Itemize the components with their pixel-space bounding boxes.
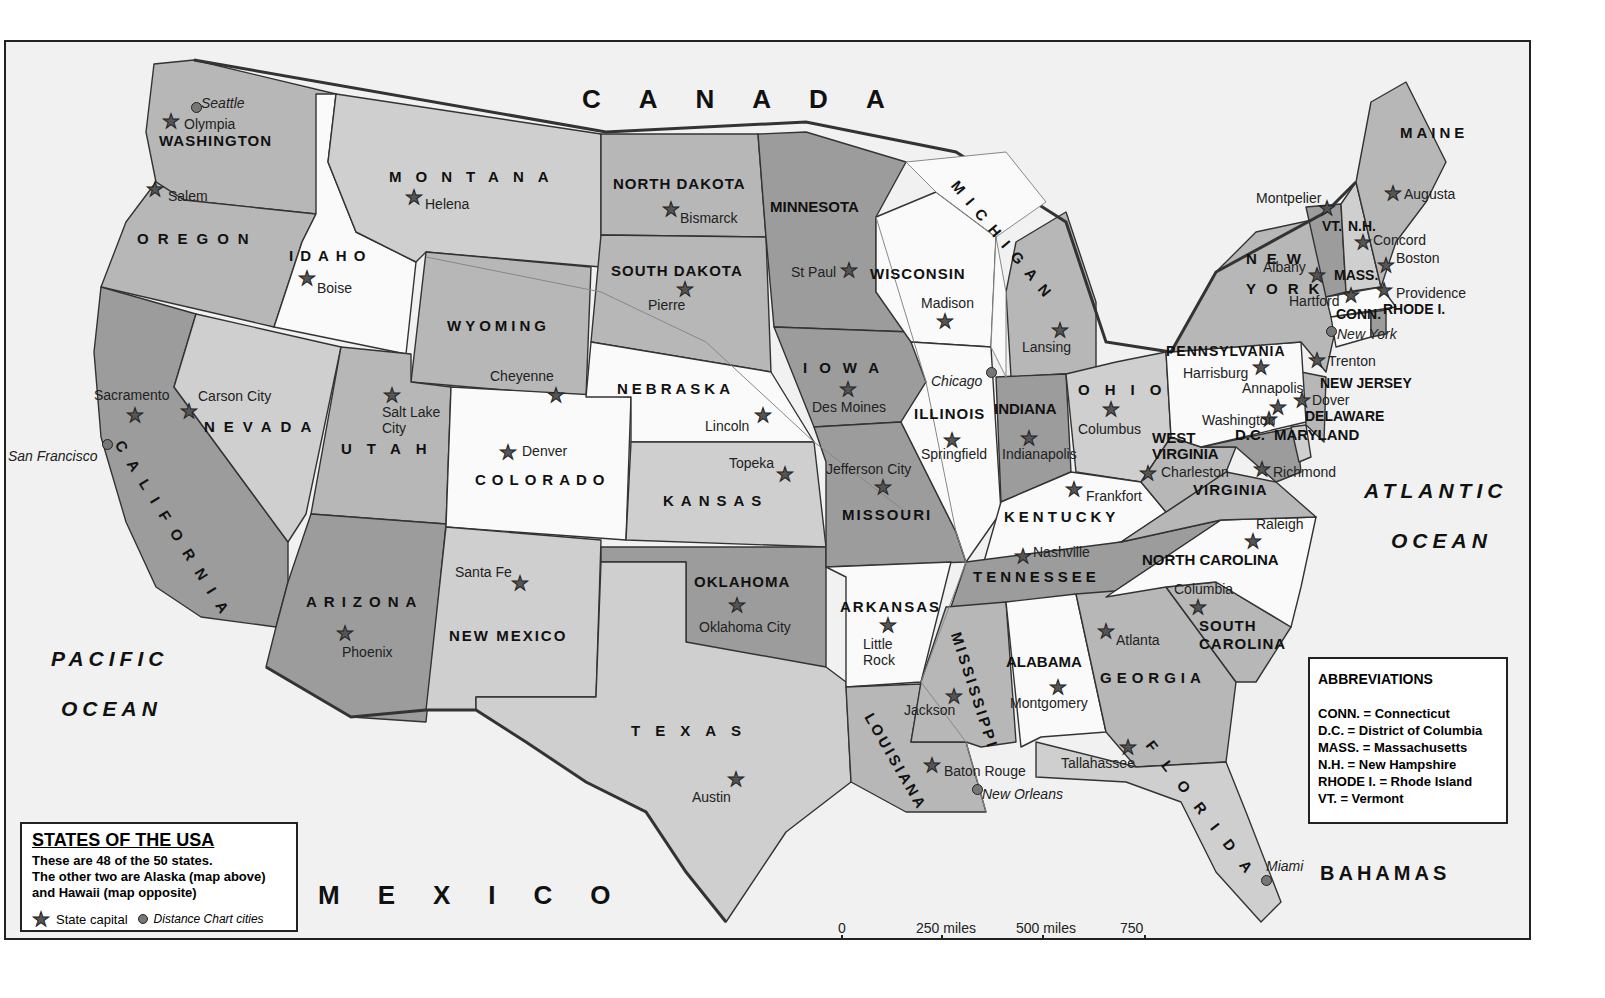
scale-label-500: 500 miles bbox=[1016, 920, 1076, 936]
label-arizona: ARIZONA bbox=[306, 593, 423, 610]
capital-pierre: Pierre bbox=[648, 297, 685, 313]
scale-bar: 0 250 miles 500 miles 750 miles bbox=[838, 920, 1148, 940]
capital-star-icon: ★ bbox=[405, 188, 423, 206]
scale-label-250: 250 miles bbox=[916, 920, 976, 936]
capital-montpelier: Montpelier bbox=[1256, 190, 1321, 206]
city-chicago: Chicago bbox=[931, 373, 982, 389]
label-new-mexico: NEW MEXICO bbox=[449, 627, 567, 644]
capital-star-icon: ★ bbox=[547, 386, 565, 404]
capital-star-icon: ★ bbox=[162, 112, 180, 130]
capital-denver: Denver bbox=[522, 443, 567, 459]
scale-label-750: 750 miles bbox=[1120, 920, 1153, 940]
capital-star-icon: ★ bbox=[662, 200, 680, 218]
legend-description-2: The other two are Alaska (map above) bbox=[32, 869, 286, 885]
capital-lincoln: Lincoln bbox=[705, 418, 749, 434]
label-maryland: MARYLAND bbox=[1274, 426, 1359, 443]
map-legend: STATES OF THE USA These are 48 of the 50… bbox=[20, 822, 298, 932]
capital-columbia: Columbia bbox=[1174, 581, 1233, 597]
capital-star-icon: ★ bbox=[1252, 358, 1270, 376]
label-nebraska: NEBRASKA bbox=[617, 380, 734, 397]
capital-olympia: Olympia bbox=[184, 116, 235, 132]
capital-austin: Austin bbox=[692, 789, 731, 805]
capital-star-icon: ★ bbox=[1308, 266, 1326, 284]
label-vermont: VT. bbox=[1322, 218, 1342, 234]
label-massachusetts: MASS. bbox=[1334, 267, 1378, 283]
capital-st-paul: St Paul bbox=[791, 264, 836, 280]
capital-star-icon: ★ bbox=[1244, 532, 1262, 550]
capital-star-icon: ★ bbox=[1051, 321, 1069, 339]
label-north-carolina: NORTH CAROLINA bbox=[1142, 551, 1279, 568]
capital-star-icon: ★ bbox=[727, 770, 745, 788]
capital-star-icon: ★ bbox=[180, 402, 198, 420]
label-west-virginia: WEST VIRGINIA bbox=[1152, 430, 1222, 462]
capital-star-icon: ★ bbox=[1342, 286, 1360, 304]
capital-star-icon: ★ bbox=[499, 443, 517, 461]
capital-star-icon: ★ bbox=[126, 406, 144, 424]
capital-star-icon: ★ bbox=[383, 386, 401, 404]
capital-phoenix: Phoenix bbox=[342, 644, 393, 660]
label-idaho: IDAHO bbox=[289, 247, 372, 264]
capital-jefferson-city: Jefferson City bbox=[826, 461, 911, 477]
state-colorado bbox=[446, 387, 631, 540]
label-virginia: VIRGINIA bbox=[1193, 481, 1268, 498]
city-seattle: Seattle bbox=[201, 95, 245, 111]
label-missouri: MISSOURI bbox=[842, 506, 932, 523]
label-north-dakota: NORTH DAKOTA bbox=[613, 175, 746, 192]
label-alabama: ALABAMA bbox=[1006, 653, 1082, 670]
capital-star-icon: ★ bbox=[336, 624, 354, 642]
city-san-francisco: San Francisco bbox=[8, 448, 97, 464]
capital-boise: Boise bbox=[317, 280, 352, 296]
abbreviation-item: RHODE I. = Rhode Island bbox=[1318, 773, 1498, 790]
abbreviation-item: CONN. = Connecticut bbox=[1318, 705, 1498, 722]
capital-santa-fe: Santa Fe bbox=[455, 564, 512, 580]
capital-charleston: Charleston bbox=[1161, 464, 1229, 480]
capital-des-moines: Des Moines bbox=[812, 399, 886, 415]
label-illinois: ILLINOIS bbox=[914, 405, 985, 422]
state-new-mexico bbox=[426, 527, 601, 710]
label-oklahoma: OKLAHOMA bbox=[694, 573, 790, 590]
legend-distance-cities: Distance Chart cities bbox=[154, 912, 264, 926]
legend-title: STATES OF THE USA bbox=[32, 830, 286, 851]
label-colorado: COLORADO bbox=[475, 471, 611, 488]
label-rhode-island: RHODE I. bbox=[1383, 301, 1445, 317]
capital-frankfort: Frankfort bbox=[1086, 488, 1142, 504]
capital-star-icon: ★ bbox=[923, 756, 941, 774]
label-washington: WASHINGTON bbox=[159, 132, 272, 149]
capital-star-icon: ★ bbox=[839, 380, 857, 398]
capital-star-icon: ★ bbox=[936, 312, 954, 330]
capital-star-icon: ★ bbox=[1102, 400, 1120, 418]
label-kentucky: KENTUCKY bbox=[1004, 508, 1119, 525]
label-iowa: IOWA bbox=[803, 359, 891, 376]
label-tennessee: TENNESSEE bbox=[973, 568, 1100, 585]
capital-nashville: Nashville bbox=[1033, 544, 1090, 560]
label-pacific-ocean-1: PACIFIC bbox=[51, 647, 168, 671]
city-new-orleans: New Orleans bbox=[982, 786, 1063, 802]
capital-star-icon: ★ bbox=[1065, 480, 1083, 498]
label-south-carolina: SOUTH CAROLINA bbox=[1199, 617, 1279, 653]
capital-providence: Providence bbox=[1396, 285, 1466, 301]
capital-star-icon: ★ bbox=[1293, 391, 1311, 409]
capital-star-icon: ★ bbox=[1308, 351, 1326, 369]
city-miami: Miami bbox=[1266, 858, 1303, 874]
capital-augusta: Augusta bbox=[1404, 186, 1455, 202]
capital-columbus: Columbus bbox=[1078, 421, 1141, 437]
label-utah: UTAH bbox=[341, 440, 442, 457]
capital-star-icon: ★ bbox=[1020, 429, 1038, 447]
capital-albany: Albany bbox=[1263, 259, 1306, 275]
capital-star-icon: ★ bbox=[1253, 460, 1271, 478]
capital-star-icon: ★ bbox=[676, 280, 694, 298]
legend-description-3: and Hawaii (map opposite) bbox=[32, 885, 286, 901]
capital-star-icon: ★ bbox=[1189, 598, 1207, 616]
city-dot-icon bbox=[1261, 875, 1272, 886]
capital-springfield: Springfield bbox=[921, 446, 987, 462]
label-montana: MONTANA bbox=[389, 168, 563, 185]
label-texas: TEXAS bbox=[631, 722, 756, 739]
usa-map bbox=[6, 42, 1531, 940]
capital-raleigh: Raleigh bbox=[1256, 516, 1303, 532]
label-mexico: MEXICO bbox=[318, 880, 649, 911]
capital-salem: Salem bbox=[168, 188, 208, 204]
capital-star-icon: ★ bbox=[1354, 233, 1372, 251]
capital-star-icon: ★ bbox=[511, 574, 529, 592]
capital-star-icon: ★ bbox=[1375, 281, 1393, 299]
capital-star-icon: ★ bbox=[874, 478, 892, 496]
